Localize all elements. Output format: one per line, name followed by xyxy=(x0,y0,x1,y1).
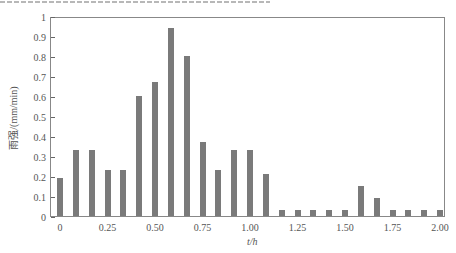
y-tick xyxy=(51,17,55,18)
y-tick-label: 0 xyxy=(41,212,46,223)
bar xyxy=(263,174,269,216)
cropped-caption-text xyxy=(0,0,270,6)
bar xyxy=(326,210,332,216)
y-tick-label: 0.6 xyxy=(34,92,47,103)
bar xyxy=(120,170,126,216)
bar xyxy=(342,210,348,216)
y-tick-label: 0.1 xyxy=(34,192,47,203)
y-tick xyxy=(51,117,55,118)
x-tick-label: 0.25 xyxy=(99,222,117,233)
y-tick-label: 0.8 xyxy=(34,52,47,63)
y-tick xyxy=(51,177,55,178)
bar xyxy=(200,142,206,216)
x-tick-label: 0 xyxy=(58,222,63,233)
x-tick-label: 0.75 xyxy=(194,222,212,233)
y-tick-label: 0.2 xyxy=(34,172,47,183)
bar xyxy=(310,210,316,216)
y-tick-label: 1 xyxy=(41,12,46,23)
bar xyxy=(168,28,174,216)
x-tick-label: 1.75 xyxy=(384,222,402,233)
bar xyxy=(421,210,427,216)
bar xyxy=(73,150,79,216)
y-tick xyxy=(51,97,55,98)
x-tick-label: 1.00 xyxy=(241,222,259,233)
y-tick xyxy=(51,57,55,58)
bar xyxy=(89,150,95,216)
bar xyxy=(390,210,396,216)
bar xyxy=(184,56,190,216)
y-axis-title: 雨强/(mm/min) xyxy=(5,86,20,149)
x-tick-label: 1.50 xyxy=(336,222,354,233)
bar xyxy=(295,210,301,216)
y-tick-label: 0.7 xyxy=(34,72,47,83)
bar xyxy=(247,150,253,216)
y-tick xyxy=(51,157,55,158)
x-tick-label: 1.25 xyxy=(289,222,307,233)
bar xyxy=(231,150,237,216)
x-axis-title: t/h xyxy=(247,236,258,247)
y-tick xyxy=(51,197,55,198)
bar xyxy=(374,198,380,216)
bar xyxy=(405,210,411,216)
y-tick xyxy=(51,77,55,78)
y-tick-label: 0.9 xyxy=(34,32,47,43)
bar xyxy=(136,96,142,216)
y-tick xyxy=(51,37,55,38)
bar xyxy=(437,210,443,216)
plot-area xyxy=(50,17,445,217)
y-tick-label: 0.5 xyxy=(34,112,47,123)
bar xyxy=(215,170,221,216)
bar xyxy=(105,170,111,216)
bar xyxy=(279,210,285,216)
x-tick-label: 0.50 xyxy=(146,222,164,233)
bar xyxy=(152,82,158,216)
bar xyxy=(57,178,63,216)
bar xyxy=(358,186,364,216)
x-tick-label: 2.00 xyxy=(431,222,449,233)
y-tick xyxy=(51,137,55,138)
y-tick-label: 0.3 xyxy=(34,152,47,163)
y-tick xyxy=(51,217,55,218)
y-tick-label: 0.4 xyxy=(34,132,47,143)
